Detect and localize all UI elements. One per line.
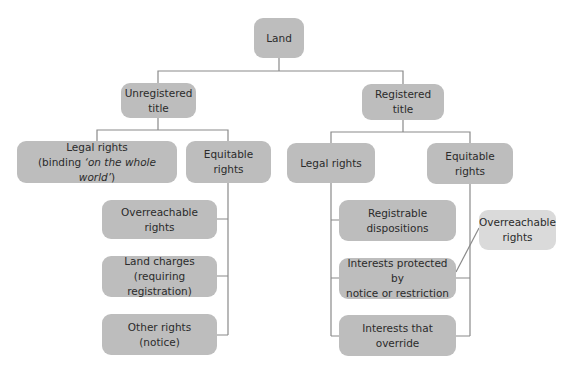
node-interests-protected: Interests protected by notice or restric…: [339, 258, 456, 299]
line2-emphasis: ‘on the whole world’: [79, 156, 156, 183]
node-label-line2: rights: [502, 230, 532, 245]
node-label-line2: notice or restriction: [346, 286, 449, 301]
node-label-line1: Unregistered: [125, 86, 193, 101]
line2-post: ): [111, 171, 115, 183]
node-label-line1: Legal rights: [66, 140, 128, 155]
node-overreachable-rights-unregistered: Overreachable rights: [102, 200, 217, 239]
node-label-line1: Land charges: [124, 254, 195, 269]
node-label-line1: Overreachable rights: [106, 205, 213, 235]
node-registered-legal-rights: Legal rights: [287, 143, 375, 183]
node-label: Registered title: [366, 87, 440, 117]
node-label: Equitable rights: [190, 147, 267, 177]
node-label-line1: Overreachable: [479, 215, 556, 230]
node-land-label: Land: [266, 31, 292, 46]
node-label-line2: dispositions: [366, 221, 428, 236]
node-registered-title: Registered title: [362, 84, 444, 120]
node-land-charges: Land charges (requiring registration): [102, 256, 217, 297]
node-label-line1: Interests that override: [343, 321, 452, 351]
node-label-line1: Other rights (notice): [106, 320, 213, 350]
node-label-line2: (binding ‘on the whole world’): [21, 155, 173, 185]
node-unregistered-title: Unregistered title: [121, 83, 196, 118]
node-label-line1: Interests protected by: [343, 256, 452, 286]
node-land: Land: [254, 18, 304, 58]
node-other-rights-notice: Other rights (notice): [102, 314, 217, 355]
node-label-line1: Registrable: [368, 206, 427, 221]
node-unregistered-equitable-rights: Equitable rights: [186, 141, 271, 183]
node-label: Legal rights: [300, 156, 362, 171]
node-label-line2: (requiring registration): [106, 269, 213, 299]
node-overreachable-rights-registered: Overreachable rights: [479, 210, 556, 250]
node-interests-that-override: Interests that override: [339, 315, 456, 356]
node-unregistered-legal-rights: Legal rights (binding ‘on the whole worl…: [17, 141, 177, 183]
node-label: Equitable rights: [431, 149, 509, 179]
node-registered-equitable-rights: Equitable rights: [427, 143, 513, 184]
node-registrable-dispositions: Registrable dispositions: [339, 200, 456, 241]
node-label-line2: title: [148, 101, 169, 116]
line2-pre: (binding: [38, 156, 85, 168]
